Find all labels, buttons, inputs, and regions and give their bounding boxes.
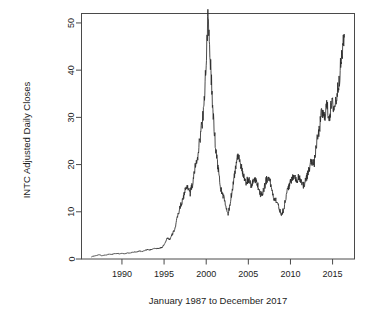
line-chart: 199019952000200520102015 01020304050 Jan…	[0, 0, 378, 320]
x-tick-label: 2015	[323, 269, 343, 279]
x-tick-label: 2000	[196, 269, 216, 279]
chart-plot-area: 199019952000200520102015 01020304050 Jan…	[0, 0, 378, 320]
x-axis-title: January 1987 to December 2017	[149, 295, 287, 306]
y-axis-title: INTC Adjusted Daily Closes	[21, 81, 32, 198]
x-tick-label: 2010	[280, 269, 300, 279]
y-tick-label: 40	[67, 65, 77, 75]
x-tick-label: 1995	[154, 269, 174, 279]
y-tick-label: 50	[67, 18, 77, 28]
axis-tick-marks	[76, 23, 333, 265]
x-tick-label: 2005	[238, 269, 258, 279]
y-axis-tick-labels: 01020304050	[67, 18, 77, 262]
series-line-intc	[92, 9, 345, 257]
y-tick-label: 20	[67, 160, 77, 170]
x-axis-tick-labels: 199019952000200520102015	[112, 269, 343, 279]
plot-frame	[82, 14, 355, 260]
y-tick-label: 0	[67, 256, 77, 261]
x-tick-label: 1990	[112, 269, 132, 279]
y-tick-label: 30	[67, 112, 77, 122]
y-tick-label: 10	[67, 207, 77, 217]
